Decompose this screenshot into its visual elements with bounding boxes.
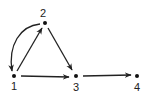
node-label-4: 4 [134, 81, 140, 93]
node-4 [135, 74, 139, 78]
node-label-3: 3 [73, 81, 79, 93]
node-2 [43, 21, 47, 25]
node-3 [74, 74, 78, 78]
edge-2-to-3 [48, 28, 72, 70]
node-label-1: 1 [11, 80, 17, 92]
edge-3-to-4 [83, 75, 131, 76]
edge-1-to-2 [17, 28, 42, 71]
node-1 [12, 74, 16, 78]
graph-canvas: 1 2 3 4 [0, 0, 150, 96]
edge-2-to-1 [11, 24, 40, 71]
edge-1-to-3 [21, 76, 69, 77]
node-label-2: 2 [40, 7, 46, 19]
